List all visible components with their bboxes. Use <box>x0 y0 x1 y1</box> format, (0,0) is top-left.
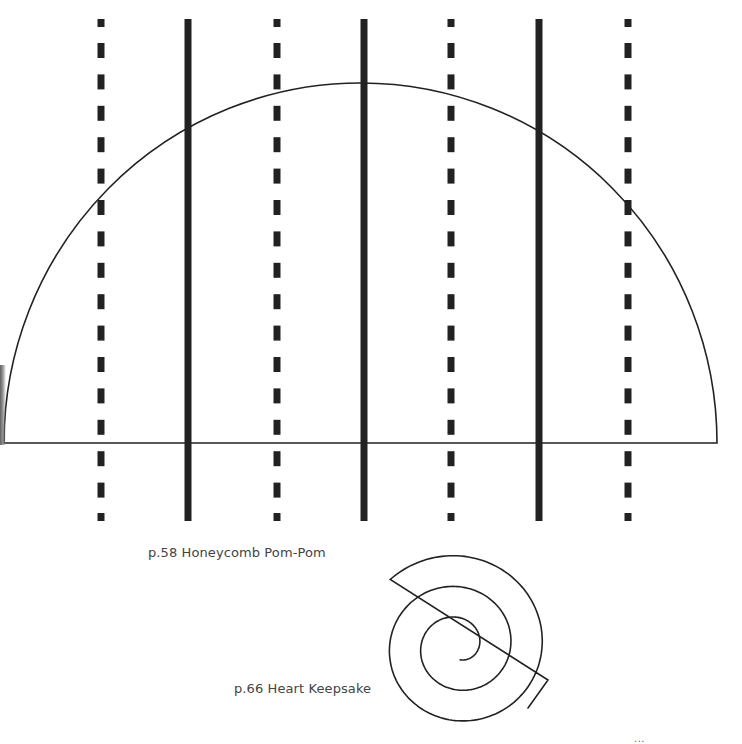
spiral-template-outline <box>389 556 548 721</box>
dashed-fold-line <box>625 19 632 521</box>
dashed-fold-line <box>98 19 105 521</box>
page-code-label: ... <box>634 733 645 744</box>
heart-keepsake-label: p.66 Heart Keepsake <box>234 681 371 696</box>
honeycomb-pom-pom-label: p.58 Honeycomb Pom-Pom <box>148 545 326 560</box>
fold-lines <box>98 19 632 521</box>
solid-cut-line <box>185 19 192 521</box>
scan-edge-shadow <box>0 365 6 445</box>
solid-cut-line <box>361 19 368 521</box>
solid-cut-line <box>536 19 543 521</box>
